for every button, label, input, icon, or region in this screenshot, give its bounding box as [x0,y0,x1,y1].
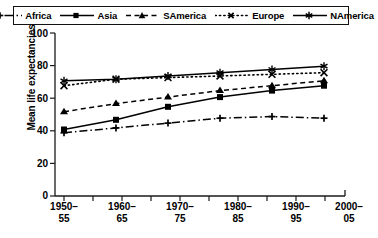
series-africa-line [64,117,324,133]
series-samerica-markers [60,77,328,114]
series-africa [61,113,328,136]
axis-spines [55,33,345,196]
x-axis-ticks [64,196,325,201]
series-samerica [60,77,328,114]
y-axis-ticks [50,33,55,196]
series-asia [61,83,327,133]
series-samerica-line [64,81,324,112]
series-asia-line [64,86,324,130]
series-asia-markers [61,83,327,133]
